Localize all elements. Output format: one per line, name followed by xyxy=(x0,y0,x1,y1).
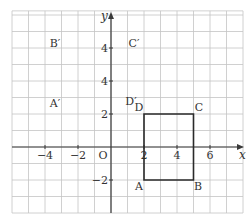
grid-lines xyxy=(12,11,243,213)
point-label-C-prime: C′ xyxy=(129,37,140,50)
point-label-D-prime: D′ xyxy=(125,95,137,108)
point-label-A-prime: A′ xyxy=(49,97,61,110)
origin-label: O xyxy=(98,149,107,162)
y-axis-label: y xyxy=(100,9,108,23)
coordinate-grid-diagram: x y O −4−2246442−2 ABCDA′B′C′D′ xyxy=(0,0,246,224)
y-tick-label: 4 xyxy=(101,42,108,55)
point-label-B: B xyxy=(194,180,202,193)
x-tick-label: 6 xyxy=(207,149,214,162)
x-tick-label: −2 xyxy=(70,149,86,162)
x-tick-label: −4 xyxy=(37,149,53,162)
point-labels: ABCDA′B′C′D′ xyxy=(49,37,203,193)
point-label-A: A xyxy=(134,180,144,193)
x-tick-label: 4 xyxy=(174,149,181,162)
point-label-B-prime: B′ xyxy=(50,37,61,50)
y-tick-label: 2 xyxy=(101,108,108,121)
y-tick-label: 4 xyxy=(101,75,108,88)
y-tick-label: −2 xyxy=(92,174,108,187)
point-label-C: C xyxy=(195,101,203,114)
x-axis-label: x xyxy=(239,148,246,162)
